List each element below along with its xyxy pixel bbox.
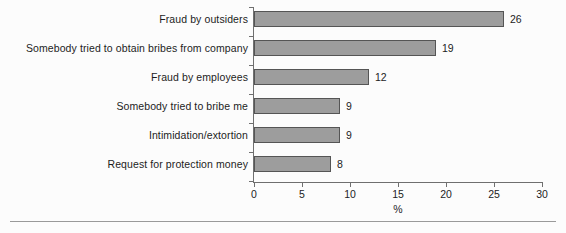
bottom-divider: [10, 221, 556, 222]
x-axis-tick-label: 30: [532, 188, 552, 200]
x-axis-tick: [302, 183, 303, 187]
bar-value-label: 12: [375, 70, 387, 84]
y-axis-tick: [249, 36, 253, 37]
bar-intimidation-extortion: [254, 127, 340, 143]
x-axis-tick: [254, 183, 255, 187]
x-axis-title: %: [378, 203, 418, 215]
category-label: Somebody tried to obtain bribes from com…: [0, 41, 248, 55]
x-axis-tick-label: 20: [436, 188, 456, 200]
bar-bribes-from-company: [254, 40, 436, 56]
chart-figure: Fraud by outsiders Somebody tried to obt…: [0, 0, 566, 233]
y-axis-line: [253, 7, 254, 183]
bar-value-label: 9: [346, 128, 352, 142]
bar-value-label: 19: [442, 41, 454, 55]
x-axis-tick: [542, 183, 543, 187]
bar-value-label: 8: [337, 157, 343, 171]
x-axis-tick-label: 10: [340, 188, 360, 200]
x-axis-tick-label: 5: [292, 188, 312, 200]
y-axis-tick: [249, 7, 253, 8]
x-axis-tick-label: 15: [388, 188, 408, 200]
x-axis-tick: [494, 183, 495, 187]
bar-value-label: 9: [346, 99, 352, 113]
bar-fraud-by-employees: [254, 69, 369, 85]
bar-tried-to-bribe-me: [254, 98, 340, 114]
x-axis-tick: [398, 183, 399, 187]
category-label: Fraud by employees: [0, 70, 248, 84]
x-axis-tick: [350, 183, 351, 187]
category-label: Somebody tried to bribe me: [0, 99, 248, 113]
bar-fraud-by-outsiders: [254, 11, 504, 27]
bar-protection-money: [254, 156, 331, 172]
x-axis-tick: [446, 183, 447, 187]
category-label: Intimidation/extortion: [0, 128, 248, 142]
bar-value-label: 26: [510, 12, 522, 26]
y-axis-tick: [249, 152, 253, 153]
y-axis-tick: [249, 94, 253, 95]
y-axis-tick: [249, 65, 253, 66]
x-axis-tick-label: 0: [244, 188, 264, 200]
category-label: Fraud by outsiders: [0, 12, 248, 26]
bar-chart-plot-area: Fraud by outsiders Somebody tried to obt…: [0, 0, 566, 233]
x-axis-tick-label: 25: [484, 188, 504, 200]
category-label: Request for protection money: [0, 157, 248, 171]
y-axis-tick: [249, 123, 253, 124]
